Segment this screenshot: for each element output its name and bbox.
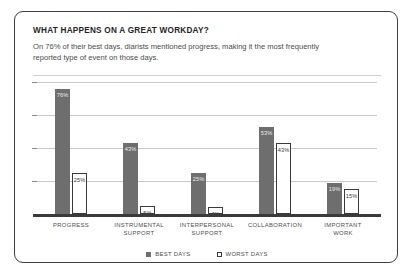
x-axis-category-label: INTERPERSONALSUPPORT: [173, 221, 241, 238]
bar-best-days[interactable]: 25%: [191, 173, 206, 214]
bar-value-label: 25%: [73, 177, 86, 183]
bar-worst-days[interactable]: 25%: [72, 173, 87, 214]
x-axis-category-label: INSTRUMENTALSUPPORT: [105, 221, 173, 238]
legend-item[interactable]: WORST DAYS: [217, 251, 268, 257]
bar-group: 19%15%: [309, 82, 377, 214]
x-axis-category-label: IMPORTANTWORK: [309, 221, 377, 238]
legend-swatch-icon: [217, 252, 222, 257]
legend-label: BEST DAYS: [155, 251, 190, 257]
bar-worst-days[interactable]: 43%: [276, 143, 291, 214]
bar-group: 76%25%: [37, 82, 105, 214]
bar-best-days[interactable]: 76%: [55, 89, 70, 214]
bar-value-label: 19%: [327, 186, 342, 192]
bar-value-label: 43%: [123, 146, 138, 152]
bar-value-label: 53%: [259, 130, 274, 136]
plot-area: 76%25%43%5%25%4%53%43%19%15%: [37, 82, 377, 214]
bar-worst-days[interactable]: 4%: [208, 207, 223, 214]
bar-group: 53%43%: [241, 82, 309, 214]
bar-value-label: 25%: [191, 176, 206, 182]
bar-best-days[interactable]: 43%: [123, 143, 138, 214]
bar-group: 25%4%: [173, 82, 241, 214]
legend-label: WORST DAYS: [226, 251, 268, 257]
x-axis-category-label: PROGRESS: [37, 221, 105, 229]
bar-value-label: 15%: [345, 193, 358, 199]
bar-worst-days[interactable]: 15%: [344, 189, 359, 214]
bar-best-days[interactable]: 19%: [327, 183, 342, 214]
page-title: WHAT HAPPENS ON A GREAT WORKDAY?: [33, 26, 209, 35]
bar-value-label: 76%: [55, 92, 70, 98]
bar-group: 43%5%: [105, 82, 173, 214]
legend-item[interactable]: BEST DAYS: [146, 251, 190, 257]
header-divider: [33, 75, 381, 76]
chart-subtitle: On 76% of their best days, diarists ment…: [33, 41, 343, 63]
bar-best-days[interactable]: 53%: [259, 127, 274, 214]
axis-baseline: [33, 214, 381, 217]
x-axis-category-label: COLLABORATION: [241, 221, 309, 229]
chart-legend: BEST DAYSWORST DAYS: [15, 251, 399, 257]
x-axis-labels: PROGRESSINSTRUMENTALSUPPORTINTERPERSONAL…: [37, 221, 377, 247]
legend-swatch-icon: [146, 252, 151, 257]
bar-worst-days[interactable]: 5%: [140, 206, 155, 214]
chart-card: WHAT HAPPENS ON A GREAT WORKDAY? On 76% …: [14, 11, 398, 263]
bar-value-label: 43%: [277, 147, 290, 153]
